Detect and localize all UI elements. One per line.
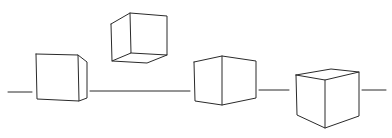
cube-3-edge-1 xyxy=(194,56,256,105)
cube-2-edge-1 xyxy=(111,13,167,63)
cube-4 xyxy=(296,69,359,128)
cube-1-edge-1 xyxy=(36,54,79,101)
cube-2-edge-2 xyxy=(112,13,131,61)
cube-2 xyxy=(111,13,167,63)
cube-4-edge-1 xyxy=(296,69,359,128)
cube-2-edge-3 xyxy=(131,53,167,55)
cube-1 xyxy=(36,54,87,101)
cube-group xyxy=(36,13,359,128)
horizon-line xyxy=(8,90,386,92)
cube-3 xyxy=(194,56,256,105)
cubes-diagram xyxy=(0,0,392,138)
